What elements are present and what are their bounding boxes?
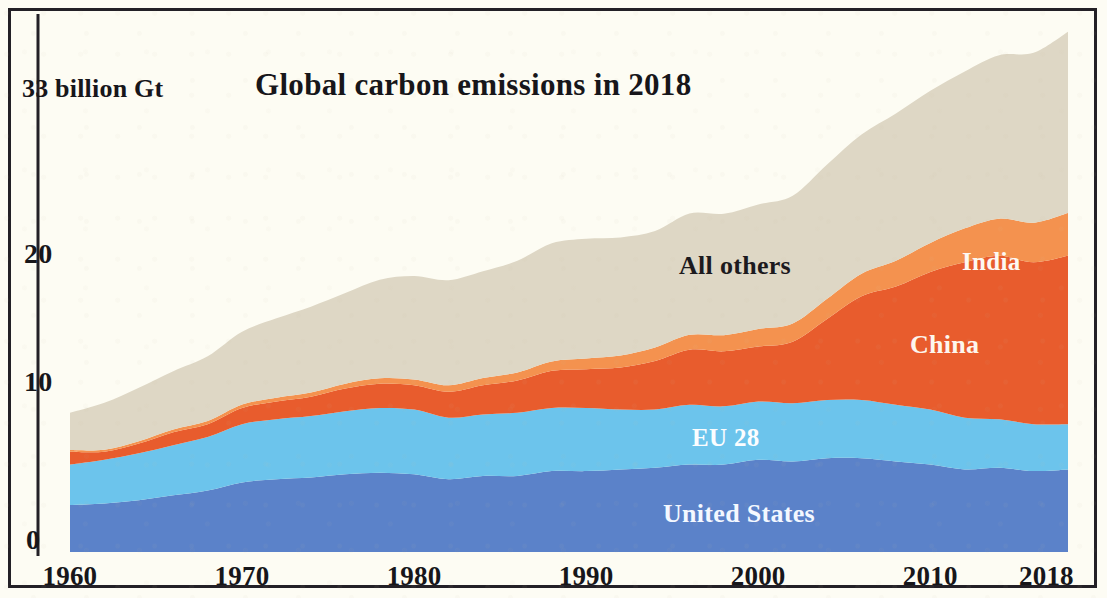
x-axis-tick-1980: 1980 xyxy=(387,561,442,592)
series-label-china: China xyxy=(910,330,979,360)
x-axis-tick-1970: 1970 xyxy=(215,561,270,592)
y-axis-tick-0: 0 xyxy=(26,524,40,556)
x-axis-tick-2018: 2018 xyxy=(1019,561,1074,592)
chart-page: Global carbon emissions in 2018 33 billi… xyxy=(0,0,1107,598)
series-label-united-states: United States xyxy=(663,499,815,529)
y-axis-max-label: 33 billion Gt xyxy=(22,74,163,104)
x-axis-tick-1990: 1990 xyxy=(559,561,614,592)
series-label-india: India xyxy=(962,248,1020,276)
page-title: Global carbon emissions in 2018 xyxy=(255,67,691,103)
x-axis-tick-2000: 2000 xyxy=(731,561,786,592)
x-axis-tick-1960: 1960 xyxy=(43,561,98,592)
series-label-all-others: All others xyxy=(679,251,791,281)
x-axis-tick-2010: 2010 xyxy=(903,561,958,592)
y-axis-tick-20: 20 xyxy=(24,238,52,270)
area-series-group xyxy=(70,32,1068,552)
y-axis-tick-10: 10 xyxy=(24,366,52,398)
series-label-eu28: EU 28 xyxy=(692,424,759,452)
